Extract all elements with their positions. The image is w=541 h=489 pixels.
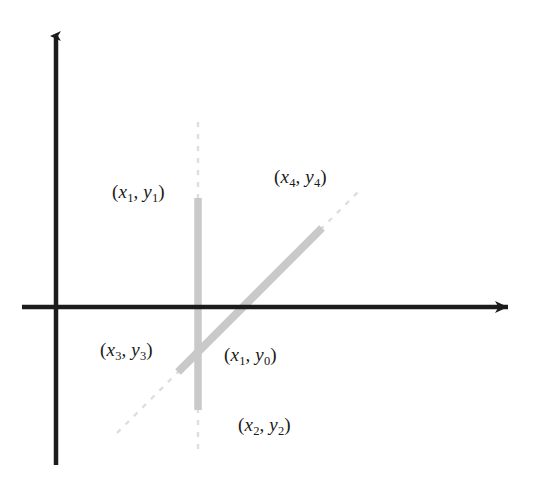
paren-close: ) [270, 344, 277, 365]
var-x: x [245, 414, 254, 435]
paren-close: ) [320, 166, 327, 187]
paren-close: ) [284, 414, 291, 435]
paren-close: ) [146, 339, 153, 360]
diagonal-dashed-lower [117, 370, 180, 433]
point-label-x2y2: (x2, y2) [238, 415, 291, 434]
var-y: y [269, 414, 278, 435]
point-label-x1y0: (x1, y0) [224, 345, 277, 364]
comma: , [133, 181, 143, 202]
coordinate-diagram: (x1, y1) (x4, y4) (x3, y3) (x1, y0) (x2,… [0, 0, 541, 489]
var-y: y [131, 339, 140, 360]
paren-close: ) [158, 181, 165, 202]
comma: , [259, 414, 269, 435]
var-y: y [305, 166, 314, 187]
point-label-x3y3: (x3, y3) [100, 340, 153, 359]
comma: , [121, 339, 131, 360]
var-x: x [281, 166, 290, 187]
diagonal-dashed-upper [320, 191, 359, 230]
comma: , [295, 166, 305, 187]
var-x: x [107, 339, 116, 360]
var-y: y [255, 344, 264, 365]
point-label-x4y4: (x4, y4) [274, 167, 327, 186]
point-label-x1y1: (x1, y1) [112, 182, 165, 201]
var-x: x [119, 181, 128, 202]
comma: , [245, 344, 255, 365]
var-x: x [231, 344, 240, 365]
var-y: y [143, 181, 152, 202]
